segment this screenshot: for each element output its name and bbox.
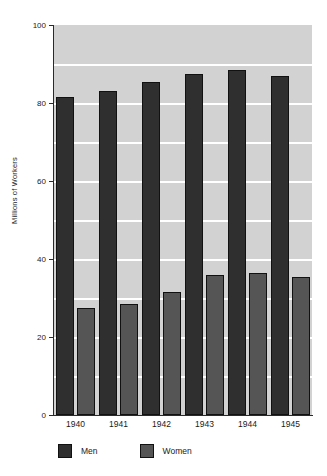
bar-men-1943	[185, 74, 203, 415]
bar-men-1941	[99, 91, 117, 415]
legend-label-men: Men	[81, 446, 98, 456]
legend-entry-women: Women	[140, 444, 192, 458]
y-tick-mark	[49, 103, 53, 104]
bar-women-1943	[206, 275, 224, 415]
bar-men-1940	[56, 97, 74, 415]
y-tick-label-0: 0	[6, 411, 46, 420]
chart-legend: MenWomen	[58, 444, 192, 458]
x-tick-label-1941: 1941	[96, 419, 142, 429]
x-tick-label-1942: 1942	[139, 419, 185, 429]
legend-label-women: Women	[163, 446, 192, 456]
x-tick-label-1943: 1943	[182, 419, 228, 429]
x-tick-label-1940: 1940	[53, 419, 99, 429]
x-tick-label-1945: 1945	[268, 419, 314, 429]
bar-men-1945	[271, 76, 289, 415]
legend-swatch-women	[140, 444, 154, 458]
y-tick-mark	[49, 259, 53, 260]
y-tick-label-40: 40	[6, 255, 46, 264]
bar-women-1942	[163, 292, 181, 415]
y-tick-mark	[49, 181, 53, 182]
x-tick-label-1944: 1944	[225, 419, 271, 429]
bar-women-1940	[77, 308, 95, 415]
y-tick-label-60: 60	[6, 177, 46, 186]
y-tick-mark	[49, 25, 53, 26]
x-axis-line	[53, 415, 313, 416]
bar-women-1944	[249, 273, 267, 415]
legend-entry-men: Men	[58, 444, 98, 458]
y-tick-label-100: 100	[6, 21, 46, 30]
y-axis-line	[53, 25, 54, 416]
bar-women-1945	[292, 277, 310, 415]
bar-men-1942	[142, 82, 160, 415]
y-tick-label-20: 20	[6, 333, 46, 342]
gridline	[54, 64, 312, 66]
y-axis-title: Millions of Workers	[10, 141, 19, 241]
y-tick-label-80: 80	[6, 99, 46, 108]
bar-women-1941	[120, 304, 138, 415]
plot-area	[54, 25, 312, 415]
y-tick-mark	[49, 415, 53, 416]
y-tick-mark	[49, 337, 53, 338]
legend-swatch-men	[58, 444, 72, 458]
bar-chart: Millions of Workers 020406080100 1940194…	[0, 0, 327, 476]
bar-men-1944	[228, 70, 246, 415]
